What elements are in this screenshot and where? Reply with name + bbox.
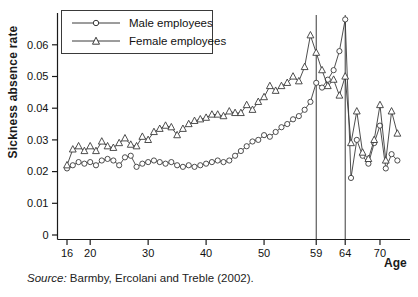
male-data-marker bbox=[314, 80, 319, 85]
male-data-marker bbox=[273, 129, 278, 134]
male-data-marker bbox=[319, 85, 324, 90]
male-data-marker bbox=[308, 99, 313, 104]
female-data-marker bbox=[377, 101, 384, 107]
female-data-marker bbox=[394, 130, 401, 136]
male-data-marker bbox=[180, 164, 185, 169]
x-tick-label: 40 bbox=[200, 247, 212, 259]
male-data-marker bbox=[192, 164, 197, 169]
female-data-marker bbox=[301, 63, 308, 69]
female-data-marker bbox=[122, 135, 129, 141]
legend-item-female: Female employees bbox=[70, 35, 212, 47]
male-data-marker bbox=[111, 158, 116, 163]
male-data-marker bbox=[151, 158, 156, 163]
legend-label-female: Female employees bbox=[129, 35, 226, 47]
male-data-marker bbox=[209, 159, 214, 164]
male-data-marker bbox=[82, 161, 87, 166]
male-data-marker bbox=[70, 163, 75, 168]
male-data-marker bbox=[290, 117, 295, 122]
female-data-marker bbox=[261, 93, 268, 99]
male-data-marker bbox=[146, 159, 151, 164]
female-data-marker bbox=[209, 111, 216, 117]
male-data-marker bbox=[215, 158, 220, 163]
male-data-marker bbox=[163, 161, 168, 166]
male-data-marker bbox=[279, 125, 284, 130]
male-series-marker-icon bbox=[70, 17, 122, 29]
x-tick-label: 59 bbox=[310, 247, 322, 259]
male-data-marker bbox=[395, 158, 400, 163]
female-data-marker bbox=[307, 31, 314, 37]
male-data-marker bbox=[285, 121, 290, 126]
male-data-marker bbox=[331, 68, 336, 73]
male-data-marker bbox=[389, 152, 394, 157]
y-tick-label: 0.04 bbox=[27, 102, 48, 114]
source-note-prefix: Source: bbox=[27, 272, 67, 284]
male-data-marker bbox=[354, 137, 359, 142]
female-data-marker bbox=[226, 108, 233, 114]
male-data-marker bbox=[198, 163, 203, 168]
female-data-marker bbox=[243, 101, 250, 107]
male-data-marker bbox=[348, 175, 353, 180]
male-data-marker bbox=[232, 153, 237, 158]
male-data-marker bbox=[134, 164, 139, 169]
male-data-marker bbox=[99, 158, 104, 163]
male-data-marker bbox=[244, 144, 249, 149]
legend: Male employees Female employees bbox=[61, 10, 213, 54]
female-data-marker bbox=[214, 111, 221, 117]
male-data-marker bbox=[296, 114, 301, 119]
male-data-marker bbox=[117, 163, 122, 168]
x-tick-label: 30 bbox=[142, 247, 154, 259]
male-data-marker bbox=[343, 17, 348, 22]
male-data-marker bbox=[204, 161, 209, 166]
sickness-absence-figure: 00.010.020.030.040.050.06162030405059647… bbox=[0, 0, 418, 297]
source-note: Source: Barmby, Ercolani and Treble (200… bbox=[27, 272, 254, 284]
male-data-marker bbox=[238, 148, 243, 153]
male-data-marker bbox=[250, 139, 255, 144]
x-tick-label: 64 bbox=[339, 247, 351, 259]
male-data-marker bbox=[383, 166, 388, 171]
male-data-marker bbox=[157, 159, 162, 164]
female-data-marker bbox=[353, 108, 360, 114]
x-tick-label: 16 bbox=[61, 247, 73, 259]
y-tick-label: 0 bbox=[42, 229, 48, 241]
y-tick-label: 0.01 bbox=[27, 197, 48, 209]
female-data-marker bbox=[162, 122, 169, 128]
x-tick-label: 50 bbox=[258, 247, 270, 259]
female-series-marker-icon bbox=[70, 35, 122, 47]
female-data-marker bbox=[139, 133, 146, 139]
female-data-marker bbox=[266, 82, 273, 88]
female-data-marker bbox=[290, 73, 297, 79]
y-tick-label: 0.06 bbox=[27, 39, 48, 51]
x-axis-title: Age bbox=[384, 256, 407, 270]
male-data-marker bbox=[256, 137, 261, 142]
y-tick-label: 0.02 bbox=[27, 165, 48, 177]
legend-item-male: Male employees bbox=[70, 17, 212, 29]
male-data-marker bbox=[302, 107, 307, 112]
male-data-marker bbox=[175, 163, 180, 168]
male-data-marker bbox=[227, 158, 232, 163]
female-data-marker bbox=[87, 142, 94, 148]
male-data-marker bbox=[140, 161, 145, 166]
legend-label-male: Male employees bbox=[129, 17, 213, 29]
female-data-marker bbox=[313, 49, 320, 55]
female-data-marker bbox=[75, 142, 82, 148]
female-data-marker bbox=[382, 157, 389, 163]
male-data-marker bbox=[76, 159, 81, 164]
male-data-marker bbox=[337, 49, 342, 54]
male-data-marker bbox=[186, 163, 191, 168]
y-tick-label: 0.05 bbox=[27, 70, 48, 82]
female-data-marker bbox=[388, 108, 395, 114]
male-data-marker bbox=[93, 163, 98, 168]
female-data-marker bbox=[336, 92, 343, 98]
male-data-marker bbox=[122, 155, 127, 160]
female-data-marker bbox=[348, 139, 355, 145]
y-tick-label: 0.03 bbox=[27, 134, 48, 146]
male-data-marker bbox=[105, 156, 110, 161]
male-data-marker bbox=[261, 133, 266, 138]
source-note-text: Barmby, Ercolani and Treble (2002). bbox=[67, 272, 254, 284]
female-data-marker bbox=[64, 161, 71, 167]
male-data-marker bbox=[169, 159, 174, 164]
male-data-marker bbox=[128, 153, 133, 158]
x-tick-label: 20 bbox=[84, 247, 96, 259]
female-data-marker bbox=[319, 66, 326, 72]
female-data-marker bbox=[330, 76, 337, 82]
